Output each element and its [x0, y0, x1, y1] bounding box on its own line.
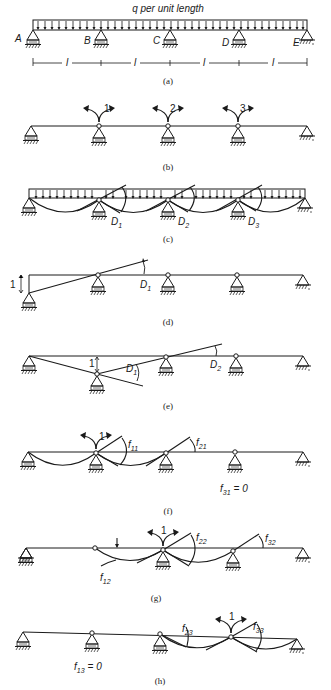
unit-moment-label: 1 [229, 611, 235, 622]
panel-e: 1 D1 D2 (e) [21, 344, 311, 411]
span-label-3: l [203, 57, 206, 68]
coord-3: 3 [240, 103, 246, 114]
support-c [162, 30, 178, 48]
unit-moment-label: 1 [99, 431, 105, 442]
load-label: q per unit length [132, 3, 204, 14]
caption-c: (c) [163, 234, 173, 244]
continuous-beam-figure: q per unit length A B C D E l l l l (a) [0, 0, 331, 690]
moment-arrow-3 [222, 105, 254, 122]
caption-e: (e) [163, 401, 173, 411]
caption-h: (h) [155, 676, 166, 686]
unit-settlement-label: 1 [10, 279, 16, 290]
distributed-load-block [33, 20, 307, 30]
coord-2: 2 [170, 103, 176, 114]
angle-D2: D2 [178, 216, 189, 229]
angle-D1: D1 [111, 216, 122, 229]
coord-1: 1 [104, 103, 110, 114]
span-label-1: l [66, 57, 69, 68]
panel-f: 1 f11 f21 f31= 0 (f) [20, 431, 311, 516]
angle-D1: D1 [140, 279, 151, 292]
support-d [231, 30, 247, 48]
flex-f11: f11 [128, 439, 138, 452]
flex-f32: f32 [265, 533, 276, 546]
caption-a: (a) [163, 76, 173, 86]
label-a: A [14, 33, 22, 44]
span-label-4: l [272, 57, 275, 68]
support-e [299, 30, 315, 44]
unit-moment-label: 1 [161, 525, 167, 536]
load-arrows [37, 21, 305, 30]
flex-f33: f33 [253, 621, 264, 634]
flex-f23: f23 [182, 623, 193, 636]
unit-moment-arrow [80, 432, 112, 449]
label-e: E [293, 37, 300, 48]
panel-b: 1 2 3 (b) [23, 103, 315, 172]
angle-D3: D3 [248, 216, 259, 229]
caption-b: (b) [163, 162, 174, 172]
panel-h: 1 f23 f33 f13= 0 (h) [15, 611, 305, 686]
panel-g: 1 f12 f22 f32 (g) [18, 525, 311, 603]
angle-D2: D2 [210, 359, 221, 372]
moment-arrow-2 [152, 105, 184, 122]
support-a [25, 30, 41, 48]
caption-f: (f) [164, 506, 173, 516]
panel-d: 1 D1 (d) [10, 258, 311, 327]
label-d: D [222, 37, 229, 48]
panel-a: q per unit length A B C D E l l l l (a) [14, 3, 315, 86]
label-c: C [153, 35, 161, 46]
label-b: B [84, 35, 91, 46]
flex-f22: f22 [196, 532, 207, 545]
support-b [93, 30, 109, 48]
caption-g: (g) [151, 593, 162, 603]
caption-d: (d) [163, 317, 174, 327]
panel-c: D1 D2 D3 (c) [21, 185, 313, 244]
span-dimensions [33, 58, 307, 66]
flex-f21: f21 [196, 437, 207, 450]
span-label-2: l [134, 57, 137, 68]
flex-f13-zero: f13= 0 [74, 661, 102, 674]
flex-f31-zero: f31= 0 [220, 483, 248, 496]
unit-settlement-label: 1 [89, 358, 95, 369]
moment-arrow-1 [83, 105, 115, 122]
flex-f12: f12 [100, 572, 111, 585]
